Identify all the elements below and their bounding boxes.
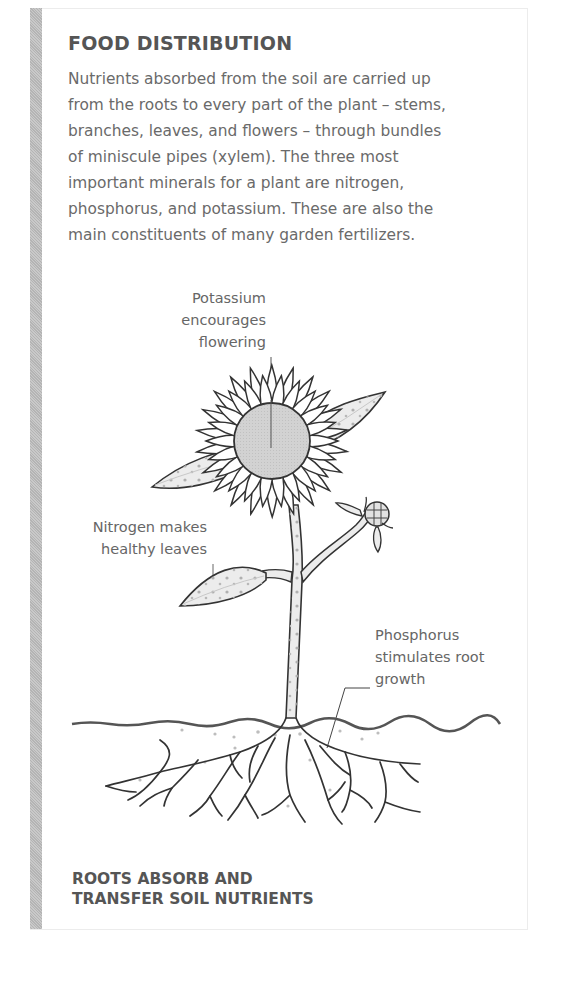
phosphorus-label: Phosphorus stimulates root growth [375, 624, 484, 690]
diagram-caption: ROOTS ABSORB AND TRANSFER SOIL NUTRIENTS [72, 869, 314, 909]
caption-line: TRANSFER SOIL NUTRIENTS [72, 889, 314, 909]
label-line: Phosphorus [375, 624, 484, 646]
plant-diagram [0, 0, 564, 981]
caption-line: ROOTS ABSORB AND [72, 869, 314, 889]
label-line: flowering [150, 331, 266, 353]
label-line: growth [375, 668, 484, 690]
label-line: Potassium [150, 287, 266, 309]
label-line: Nitrogen makes [60, 516, 207, 538]
label-line: stimulates root [375, 646, 484, 668]
potassium-label: Potassium encourages flowering [150, 287, 266, 353]
label-line: encourages [150, 309, 266, 331]
label-line: healthy leaves [60, 538, 207, 560]
nitrogen-label: Nitrogen makes healthy leaves [60, 516, 207, 560]
leaf-nitrogen-icon [180, 567, 266, 606]
sunflower-center-icon [234, 403, 310, 479]
roots-illustration [106, 718, 420, 824]
stem-icon [262, 505, 373, 718]
